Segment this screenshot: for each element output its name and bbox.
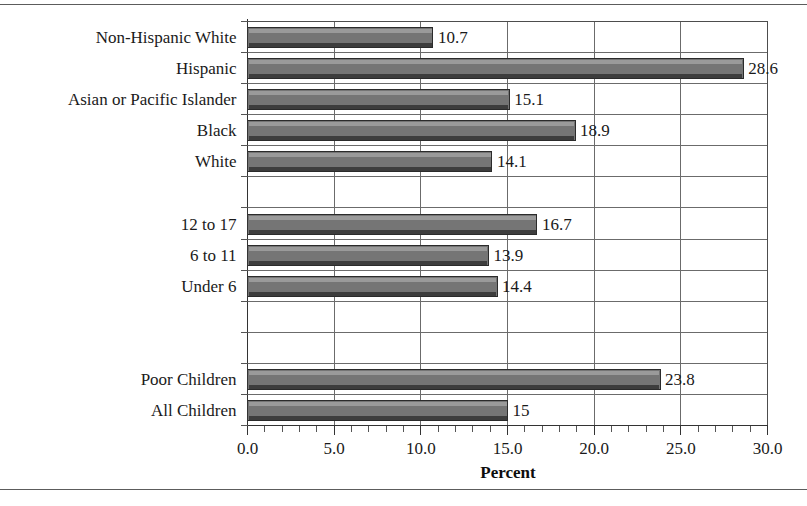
bar-highlight: [249, 153, 491, 157]
bar-shadow: [249, 167, 491, 171]
bar: [248, 246, 489, 266]
bar-value-label: 23.8: [665, 370, 695, 389]
bar-value-label: 14.4: [502, 277, 532, 296]
bar-shadow: [249, 261, 488, 265]
x-tick-label: 5.0: [324, 439, 345, 458]
bar-highlight: [249, 371, 660, 375]
x-axis-title: Percent: [480, 463, 536, 482]
x-tick-label: 15.0: [493, 439, 523, 458]
category-label: Hispanic: [176, 59, 237, 78]
bar-shadow: [249, 230, 536, 234]
bar-highlight: [249, 247, 488, 251]
bar-highlight: [249, 91, 509, 95]
x-tick-label: 25.0: [666, 439, 696, 458]
bar-value-label: 10.7: [438, 28, 468, 47]
chart-figure: Non-Hispanic WhiteHispanicAsian or Pacif…: [0, 0, 807, 506]
x-tick-label: 10.0: [406, 439, 436, 458]
category-label: Under 6: [181, 277, 236, 296]
bottom-divider-rule: [0, 489, 807, 490]
bar-shadow: [249, 416, 507, 420]
x-tick-label: 0.0: [237, 439, 258, 458]
bar-highlight: [249, 29, 432, 33]
category-label: All Children: [151, 401, 237, 420]
bar: [248, 90, 510, 110]
bars-layer: [248, 28, 744, 421]
bar-highlight: [249, 122, 575, 126]
category-label: White: [195, 152, 237, 171]
bar-shadow: [249, 105, 509, 109]
bar-value-label: 13.9: [493, 246, 523, 265]
bar: [248, 370, 661, 390]
bar: [248, 59, 744, 79]
bar-shadow: [249, 136, 575, 140]
top-divider-rule: [0, 4, 807, 5]
bar-highlight: [249, 60, 743, 64]
bar: [248, 215, 537, 235]
bar-value-label: 15.1: [514, 90, 544, 109]
bar-shadow: [249, 74, 743, 78]
bar-value-label: 18.9: [580, 121, 610, 140]
bar-value-label: 28.6: [748, 59, 778, 78]
bar-value-label: 14.1: [497, 152, 527, 171]
bar-shadow: [249, 292, 497, 296]
bar: [248, 28, 433, 48]
category-label: Non-Hispanic White: [96, 28, 237, 47]
bar-value-label: 16.7: [542, 215, 572, 234]
bar-highlight: [249, 216, 536, 220]
bar-highlight: [249, 278, 497, 282]
category-label: Poor Children: [141, 370, 237, 389]
bar-value-label: 15: [513, 401, 530, 420]
bar: [248, 277, 498, 297]
bar: [248, 401, 508, 421]
category-label: Asian or Pacific Islander: [68, 90, 237, 109]
x-tick-labels: 0.05.010.015.020.025.030.0: [237, 439, 783, 458]
bar-chart: Non-Hispanic WhiteHispanicAsian or Pacif…: [0, 0, 807, 506]
category-label: 6 to 11: [190, 246, 237, 265]
category-label: Black: [197, 121, 237, 140]
bar-shadow: [249, 43, 432, 47]
bar: [248, 152, 492, 172]
category-labels: Non-Hispanic WhiteHispanicAsian or Pacif…: [68, 28, 237, 420]
bar: [248, 121, 576, 141]
bar-shadow: [249, 385, 660, 389]
bar-highlight: [249, 402, 507, 406]
x-tick-label: 20.0: [579, 439, 609, 458]
x-tick-label: 30.0: [753, 439, 783, 458]
category-label: 12 to 17: [181, 215, 237, 234]
